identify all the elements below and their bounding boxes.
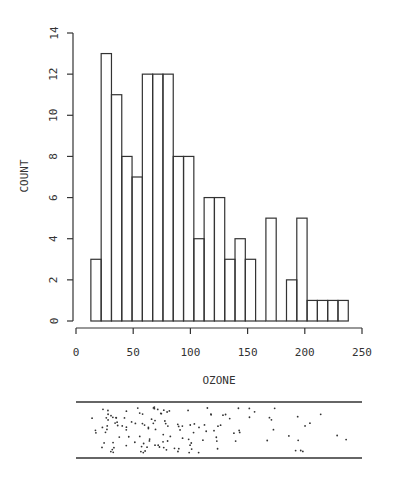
strip-point bbox=[177, 451, 179, 453]
strip-point bbox=[134, 441, 136, 443]
strip-point bbox=[178, 425, 180, 427]
strip-point bbox=[239, 432, 241, 434]
strip-point bbox=[106, 429, 108, 431]
strip-point bbox=[167, 425, 169, 427]
strip-point bbox=[274, 407, 276, 409]
histogram-bar bbox=[91, 259, 101, 321]
strip-point bbox=[105, 431, 107, 433]
strip-point bbox=[142, 413, 144, 415]
strip-point bbox=[204, 424, 206, 426]
strip-point bbox=[146, 446, 148, 448]
histogram-bar bbox=[204, 198, 214, 321]
strip-point bbox=[216, 440, 218, 442]
strip-point bbox=[215, 436, 217, 438]
y-tick-label: 14 bbox=[48, 26, 61, 40]
histogram-bar bbox=[153, 74, 163, 321]
strip-point bbox=[125, 410, 127, 412]
strip-point bbox=[295, 450, 297, 452]
strip-point bbox=[95, 429, 97, 431]
strip-point bbox=[131, 421, 133, 423]
strip-point bbox=[188, 438, 190, 440]
y-tick-label: 12 bbox=[48, 68, 61, 81]
strip-point bbox=[105, 417, 107, 419]
x-tick-label: 0 bbox=[73, 346, 80, 359]
strip-point bbox=[140, 451, 142, 453]
strip-point bbox=[114, 422, 116, 424]
x-tick-label: 150 bbox=[238, 346, 258, 359]
strip-point bbox=[166, 411, 168, 413]
strip-point bbox=[168, 410, 170, 412]
strip-point bbox=[137, 407, 139, 409]
histogram-bar bbox=[173, 156, 183, 321]
strip-point bbox=[198, 427, 200, 429]
strip-point bbox=[139, 436, 141, 438]
histogram-bar bbox=[101, 54, 111, 321]
strip-point bbox=[225, 414, 227, 416]
strip-point bbox=[248, 408, 250, 410]
strip-point bbox=[165, 423, 167, 425]
strip-point bbox=[159, 446, 161, 448]
strip-point bbox=[302, 450, 304, 452]
strip-point bbox=[95, 432, 97, 434]
strip-point bbox=[111, 449, 113, 451]
strip-point bbox=[269, 417, 271, 419]
strip-point bbox=[125, 445, 127, 447]
strip-point bbox=[189, 424, 191, 426]
histogram-bar bbox=[266, 218, 276, 321]
histogram-bar bbox=[163, 74, 173, 321]
strip-point bbox=[202, 439, 204, 441]
histogram-bar bbox=[317, 300, 327, 321]
strip-point bbox=[157, 408, 159, 410]
strip-point bbox=[151, 418, 153, 420]
strip-point bbox=[300, 450, 302, 452]
x-tick-label: 100 bbox=[180, 346, 200, 359]
strip-point bbox=[166, 449, 168, 451]
strip-point bbox=[124, 417, 126, 419]
y-tick-label: 2 bbox=[48, 277, 61, 284]
strip-point bbox=[142, 452, 144, 454]
strip-point bbox=[110, 451, 112, 453]
strip-point bbox=[112, 442, 114, 444]
x-tick-label: 50 bbox=[127, 346, 140, 359]
strip-point bbox=[198, 452, 200, 454]
strip-point bbox=[189, 444, 191, 446]
strip-point bbox=[238, 430, 240, 432]
strip-point bbox=[220, 424, 222, 426]
y-tick-label: 0 bbox=[48, 318, 61, 325]
strip-point bbox=[155, 429, 157, 431]
strip-point bbox=[125, 429, 127, 431]
histogram-bar bbox=[111, 95, 121, 321]
strip-point bbox=[110, 415, 112, 417]
histogram-bar bbox=[194, 239, 204, 321]
strip-point bbox=[191, 448, 193, 450]
strip-point bbox=[205, 430, 207, 432]
histogram-bar bbox=[184, 156, 194, 321]
histogram-chart: 02468101214COUNT050100150200250OZONE bbox=[0, 0, 394, 479]
histogram-bar bbox=[122, 156, 132, 321]
x-tick-label: 200 bbox=[295, 346, 315, 359]
strip-point bbox=[152, 422, 154, 424]
strip-point bbox=[254, 411, 256, 413]
strip-point bbox=[116, 421, 118, 423]
strip-point bbox=[297, 439, 299, 441]
strip-point bbox=[117, 425, 119, 427]
strip-point bbox=[160, 412, 162, 414]
strip-point bbox=[178, 448, 180, 450]
strip-point bbox=[190, 442, 192, 444]
strip-point bbox=[222, 414, 224, 416]
strip-point bbox=[115, 417, 117, 419]
strip-point bbox=[164, 420, 166, 422]
strip-point bbox=[157, 444, 159, 446]
strip-point bbox=[112, 416, 114, 418]
strip-point bbox=[235, 440, 237, 442]
strip-point bbox=[102, 408, 104, 410]
histogram-bar bbox=[142, 74, 152, 321]
strip-point bbox=[169, 436, 171, 438]
histogram-bar bbox=[245, 259, 255, 321]
strip-point bbox=[336, 435, 338, 437]
strip-point bbox=[167, 440, 169, 442]
y-tick-label: 4 bbox=[48, 235, 61, 242]
strip-point bbox=[345, 439, 347, 441]
strip-point bbox=[118, 436, 120, 438]
y-tick-label: 10 bbox=[48, 109, 61, 122]
